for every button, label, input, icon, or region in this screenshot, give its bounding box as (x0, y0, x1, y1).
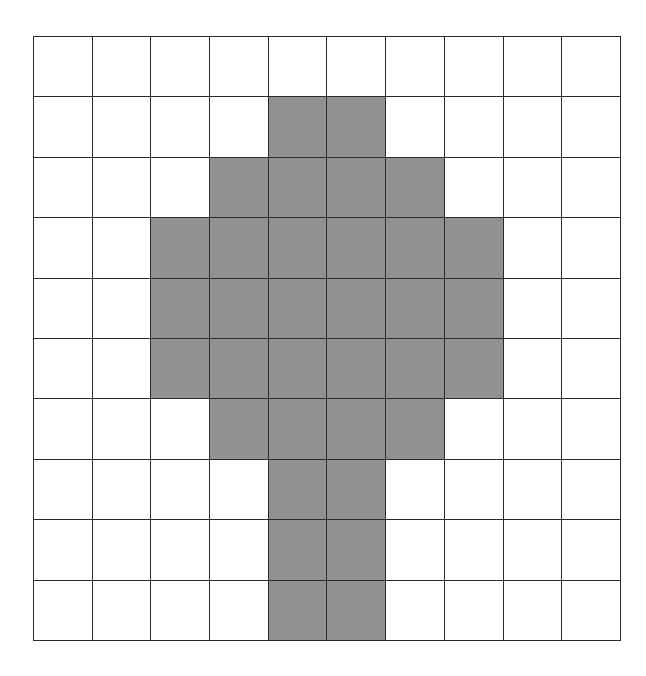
grid-cell-empty (386, 459, 445, 519)
grid-cell-shaded (327, 399, 386, 459)
grid-cell-shaded (268, 459, 327, 519)
grid-cell-empty (34, 399, 93, 459)
grid-cell-empty (92, 37, 151, 97)
grid-cell-empty (34, 338, 93, 398)
grid-cell-empty (92, 278, 151, 338)
grid-cell-shaded (268, 157, 327, 217)
grid-row (34, 399, 621, 459)
grid-cell-empty (503, 218, 562, 278)
grid-cell-shaded (327, 338, 386, 398)
grid-cell-empty (151, 97, 210, 157)
grid-cell-empty (34, 97, 93, 157)
grid-cell-empty (210, 580, 269, 640)
grid-cell-shaded (268, 580, 327, 640)
grid-cell-empty (151, 580, 210, 640)
grid-cell-empty (92, 459, 151, 519)
grid-cell-empty (444, 97, 503, 157)
grid-cell-shaded (386, 399, 445, 459)
pixel-grid (33, 36, 621, 641)
grid-cell-shaded (327, 520, 386, 580)
grid-cell-empty (503, 37, 562, 97)
grid-cell-empty (210, 97, 269, 157)
grid-cell-empty (562, 520, 621, 580)
grid-cell-shaded (210, 338, 269, 398)
grid-cell-empty (444, 580, 503, 640)
grid-row (34, 37, 621, 97)
grid-cell-empty (503, 459, 562, 519)
grid-cell-empty (503, 580, 562, 640)
grid-cell-shaded (268, 218, 327, 278)
grid-cell-empty (34, 520, 93, 580)
grid-cell-empty (562, 37, 621, 97)
grid-row (34, 97, 621, 157)
grid-cell-empty (268, 37, 327, 97)
grid-cell-shaded (327, 459, 386, 519)
grid-cell-shaded (268, 338, 327, 398)
grid-cell-shaded (327, 218, 386, 278)
grid-cell-shaded (210, 218, 269, 278)
grid-cell-shaded (444, 338, 503, 398)
grid-cell-empty (386, 97, 445, 157)
grid-cell-shaded (268, 278, 327, 338)
grid-cell-empty (444, 157, 503, 217)
grid-cell-empty (444, 459, 503, 519)
grid-cell-shaded (210, 157, 269, 217)
grid-cell-empty (151, 37, 210, 97)
grid-cell-empty (92, 520, 151, 580)
grid-cell-empty (562, 157, 621, 217)
grid-cell-shaded (327, 157, 386, 217)
grid-cell-empty (210, 37, 269, 97)
grid-cell-shaded (386, 157, 445, 217)
grid-cell-shaded (444, 218, 503, 278)
grid-cell-empty (562, 459, 621, 519)
grid-cell-empty (503, 520, 562, 580)
grid-cell-shaded (210, 399, 269, 459)
grid-cell-shaded (210, 278, 269, 338)
pixel-grid-body (34, 37, 621, 641)
grid-cell-shaded (268, 520, 327, 580)
grid-cell-empty (503, 338, 562, 398)
grid-cell-empty (562, 338, 621, 398)
grid-cell-empty (562, 97, 621, 157)
grid-cell-empty (386, 520, 445, 580)
grid-cell-empty (92, 218, 151, 278)
grid-cell-empty (151, 157, 210, 217)
grid-cell-empty (92, 399, 151, 459)
grid-cell-empty (210, 520, 269, 580)
grid-cell-empty (34, 278, 93, 338)
grid-row (34, 338, 621, 398)
grid-cell-empty (386, 37, 445, 97)
grid-cell-shaded (327, 580, 386, 640)
grid-cell-shaded (151, 278, 210, 338)
grid-cell-empty (34, 218, 93, 278)
grid-cell-shaded (386, 218, 445, 278)
grid-cell-shaded (386, 278, 445, 338)
grid-cell-empty (386, 580, 445, 640)
grid-cell-empty (34, 157, 93, 217)
grid-row (34, 520, 621, 580)
grid-cell-empty (562, 218, 621, 278)
grid-cell-empty (503, 97, 562, 157)
grid-row (34, 218, 621, 278)
grid-row (34, 580, 621, 640)
grid-cell-shaded (268, 97, 327, 157)
grid-cell-empty (562, 580, 621, 640)
grid-cell-shaded (151, 218, 210, 278)
grid-cell-empty (92, 157, 151, 217)
grid-cell-empty (562, 278, 621, 338)
grid-cell-shaded (444, 278, 503, 338)
grid-cell-shaded (386, 338, 445, 398)
shaded-grid-figure (33, 36, 621, 641)
grid-cell-empty (444, 37, 503, 97)
grid-cell-shaded (327, 97, 386, 157)
grid-cell-empty (503, 399, 562, 459)
grid-cell-empty (92, 97, 151, 157)
grid-cell-empty (34, 459, 93, 519)
grid-cell-empty (503, 157, 562, 217)
grid-cell-empty (444, 520, 503, 580)
grid-cell-empty (562, 399, 621, 459)
grid-cell-shaded (268, 399, 327, 459)
grid-row (34, 157, 621, 217)
grid-cell-shaded (151, 338, 210, 398)
grid-cell-shaded (327, 278, 386, 338)
